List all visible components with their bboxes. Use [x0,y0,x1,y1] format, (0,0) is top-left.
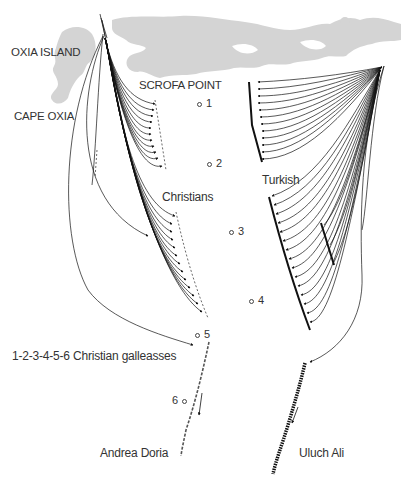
galleass-4: 4 [249,294,264,306]
galleass-1: 1 [197,97,212,109]
galleass-number: 2 [216,157,222,169]
galleass-number: 1 [206,97,212,109]
galleass-marker-icon [197,102,202,107]
galleass-marker-icon [229,230,234,235]
label-turkish: Turkish [262,173,300,187]
label-uluch-ali: Uluch Ali [299,446,344,460]
galleass-number: 4 [258,294,264,306]
christian-ships-upper [155,100,166,170]
galleass-marker-icon [249,299,254,304]
turkish-reserve-line [321,223,334,265]
galleass-5: 5 [195,328,210,340]
christian-left-ships [95,150,97,178]
christian-origin-cluster [100,14,107,40]
label-cape-oxia: CAPE OXIA [14,109,74,123]
galleass-2: 2 [207,157,222,169]
label-galleasses-legend: 1-2-3-4-5-6 Christian galleasses [12,349,176,363]
galleass-number: 6 [172,394,178,406]
galleass-marker-icon [207,162,212,167]
galleass-marker-icon [195,333,200,338]
turkish-tracks-lower [272,70,380,322]
galleass-marker-icon [182,399,187,404]
battle-diagram [0,0,401,481]
label-oxia-island: OXIA ISLAND [11,45,80,59]
galleass-6: 6 [172,394,191,406]
mainland-coast [112,16,401,78]
turkish-right-line [249,82,262,162]
galleass-number: 3 [238,225,244,237]
christian-ships-lower [176,212,208,318]
galleass-3: 3 [229,225,244,237]
label-christians: Christians [162,190,213,204]
andrea-doria-direction-arrow [199,393,202,415]
turkish-center-line [269,197,310,330]
galleass-number: 5 [204,328,210,340]
label-andrea-doria: Andrea Doria [100,446,168,460]
label-scrofa-point: SCROFA POINT [139,78,222,92]
